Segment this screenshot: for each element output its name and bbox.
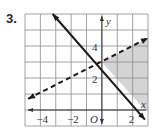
y-axis-label: y: [105, 15, 111, 27]
x-axis-label: x: [140, 98, 146, 110]
x-tick-label: −2: [67, 113, 79, 125]
x-tick-label: −4: [36, 113, 48, 125]
y-axis-arrow-up: [100, 16, 104, 21]
inequality-graph: −4 −2 2 2 4 x y O: [0, 0, 155, 140]
y-tick-label: 2: [92, 73, 98, 85]
y-axis-arrow-down: [100, 119, 104, 124]
x-axis-arrow-left: [28, 108, 33, 112]
x-tick-label: 2: [129, 113, 135, 125]
y-tick-label: 4: [92, 41, 98, 53]
origin-label: O: [90, 113, 98, 125]
